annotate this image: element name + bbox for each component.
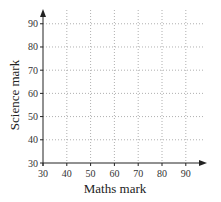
y-tick-label: 40 [28, 134, 38, 145]
tick-marks [40, 24, 186, 166]
x-tick-label: 40 [62, 168, 72, 179]
grid-lines [43, 10, 205, 163]
x-tick-label: 60 [109, 168, 119, 179]
x-tick-label: 30 [38, 168, 48, 179]
y-tick-label: 30 [28, 158, 38, 169]
axes [40, 9, 207, 166]
y-tick-label: 70 [28, 65, 38, 76]
y-axis-arrow-icon [40, 9, 46, 17]
x-tick-label: 80 [157, 168, 167, 179]
y-axis-label: Science mark [7, 59, 22, 130]
tick-labels: 3040506070809030405060708090 [28, 18, 191, 179]
y-tick-label: 90 [28, 18, 38, 29]
x-tick-label: 50 [86, 168, 96, 179]
y-tick-label: 80 [28, 41, 38, 52]
x-axis-arrow-icon [199, 160, 207, 166]
y-tick-label: 50 [28, 111, 38, 122]
x-tick-label: 90 [181, 168, 191, 179]
scatter-chart: 3040506070809030405060708090 Maths mark … [0, 0, 221, 202]
x-tick-label: 70 [133, 168, 143, 179]
x-axis-label: Maths mark [84, 181, 147, 196]
y-tick-label: 60 [28, 88, 38, 99]
